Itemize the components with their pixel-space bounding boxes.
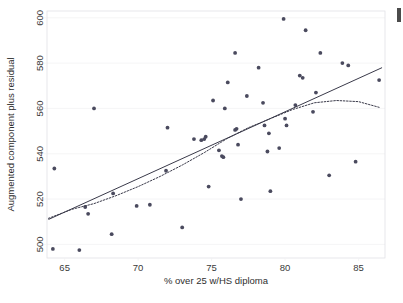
figure-background bbox=[0, 0, 403, 303]
data-point bbox=[77, 248, 81, 252]
y-tick-label: 520 bbox=[34, 191, 45, 207]
data-point bbox=[261, 101, 265, 105]
data-point bbox=[148, 203, 152, 207]
data-point bbox=[277, 146, 281, 150]
window-edge-artifact bbox=[397, 8, 401, 22]
data-point bbox=[266, 150, 270, 154]
data-point bbox=[204, 135, 208, 139]
data-point bbox=[233, 51, 237, 55]
data-point bbox=[245, 94, 249, 98]
data-point bbox=[92, 107, 96, 111]
data-point bbox=[268, 189, 272, 193]
chart-figure: 6570758085 500520540560580600 % over 25 … bbox=[0, 0, 403, 303]
y-tick-label: 600 bbox=[34, 10, 45, 26]
data-point bbox=[111, 192, 115, 196]
data-point bbox=[327, 173, 331, 177]
data-point bbox=[207, 185, 211, 189]
data-point bbox=[52, 167, 56, 171]
data-point bbox=[192, 137, 196, 141]
x-tick-label: 75 bbox=[206, 262, 217, 273]
data-point bbox=[166, 126, 170, 130]
y-tick-label: 580 bbox=[34, 55, 45, 71]
y-tick-label: 500 bbox=[34, 236, 45, 252]
data-point bbox=[318, 51, 322, 55]
scatter-plot: 6570758085 500520540560580600 % over 25 … bbox=[0, 0, 403, 303]
x-tick-label: 65 bbox=[59, 262, 70, 273]
x-tick-label: 70 bbox=[133, 262, 144, 273]
data-point bbox=[314, 91, 318, 95]
data-point bbox=[257, 66, 261, 70]
data-point bbox=[239, 197, 243, 201]
data-point bbox=[263, 124, 267, 128]
data-point bbox=[304, 28, 308, 32]
data-point bbox=[283, 117, 287, 121]
data-point bbox=[226, 80, 230, 84]
data-point bbox=[110, 232, 114, 236]
y-tick-label: 540 bbox=[34, 146, 45, 162]
data-point bbox=[164, 169, 168, 173]
y-tick-label: 560 bbox=[34, 101, 45, 117]
data-point bbox=[354, 160, 358, 164]
data-point bbox=[236, 143, 240, 147]
data-point bbox=[180, 226, 184, 230]
data-point bbox=[346, 63, 350, 67]
x-tick-label: 85 bbox=[353, 262, 364, 273]
data-point bbox=[301, 76, 305, 80]
data-point bbox=[311, 110, 315, 114]
x-tick-label: 80 bbox=[280, 262, 291, 273]
y-axis-label: Augmented component plus residual bbox=[5, 57, 16, 211]
data-point bbox=[235, 127, 239, 131]
data-point bbox=[340, 61, 344, 65]
data-point bbox=[135, 204, 139, 208]
data-point bbox=[285, 124, 289, 128]
data-point bbox=[211, 99, 215, 103]
data-point bbox=[221, 155, 225, 159]
data-point bbox=[223, 107, 227, 111]
data-point bbox=[86, 212, 90, 216]
x-axis-label: % over 25 w/HS diploma bbox=[164, 275, 269, 286]
data-point bbox=[377, 78, 381, 82]
data-point bbox=[51, 247, 55, 251]
data-point bbox=[282, 17, 286, 21]
data-point bbox=[217, 148, 221, 152]
data-point bbox=[267, 131, 271, 135]
